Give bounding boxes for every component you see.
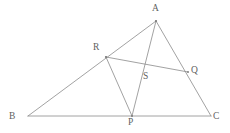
vertex-dot-R — [105, 56, 107, 58]
point-label-B: B — [9, 112, 15, 122]
cevian-RP — [106, 57, 132, 116]
point-label-Q: Q — [191, 66, 198, 76]
side-AB — [28, 21, 156, 116]
geometry-figure: A B C P Q R S — [0, 0, 230, 133]
segment-RQ — [106, 57, 188, 72]
cevian-AP — [132, 21, 156, 116]
point-label-P: P — [128, 118, 133, 128]
point-label-C: C — [213, 112, 219, 122]
side-CA — [156, 21, 211, 116]
point-label-R: R — [93, 43, 99, 53]
point-label-S: S — [143, 72, 148, 82]
point-label-A: A — [152, 4, 159, 14]
vertex-dot-Q — [187, 71, 189, 73]
vertex-dot-A — [155, 20, 157, 22]
